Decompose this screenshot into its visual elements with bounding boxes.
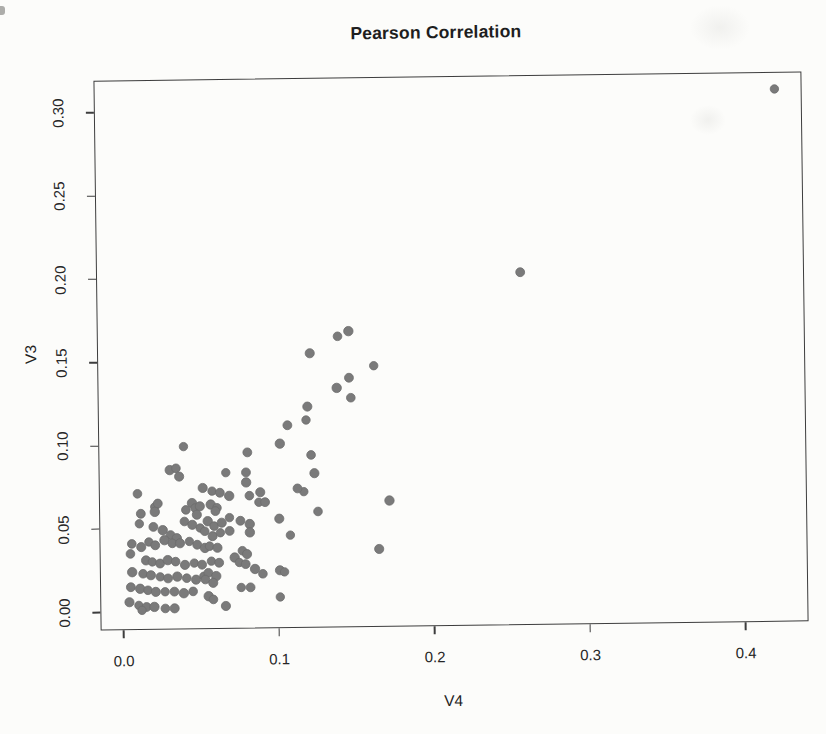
data-point (241, 560, 250, 569)
data-point (293, 484, 302, 493)
data-point (198, 483, 207, 492)
data-point (171, 557, 180, 566)
y-tick-label: 0.15 (52, 348, 69, 377)
y-tick-label: 0.00 (56, 598, 73, 627)
data-point (346, 393, 355, 402)
data-point (164, 574, 173, 583)
x-tick-mark (434, 626, 435, 634)
data-point (305, 349, 314, 358)
data-point (770, 85, 779, 94)
data-point (225, 513, 234, 522)
data-point (215, 488, 224, 497)
y-tick-mark (90, 445, 98, 446)
y-tick-mark (86, 112, 94, 113)
data-point (148, 558, 157, 567)
data-point (275, 439, 285, 449)
x-tick-mark (278, 628, 279, 636)
data-point (151, 587, 160, 596)
data-point (215, 558, 224, 567)
data-point (369, 361, 378, 370)
data-point (332, 383, 342, 393)
x-tick-mark (589, 624, 590, 632)
data-point (190, 559, 199, 568)
data-point (133, 489, 142, 498)
data-point (314, 507, 323, 516)
x-tick-label: 0.2 (424, 648, 445, 665)
data-point (286, 531, 295, 540)
data-point (135, 520, 144, 529)
data-point (245, 528, 255, 538)
data-point (216, 528, 225, 537)
x-axis-title: V4 (444, 692, 463, 710)
data-point (246, 583, 255, 592)
data-point (237, 583, 246, 592)
data-point (181, 505, 190, 514)
data-point (175, 539, 184, 548)
data-point (161, 588, 170, 597)
data-point (127, 567, 137, 577)
x-tick-mark (745, 622, 746, 630)
data-point (170, 587, 179, 596)
data-point (280, 568, 289, 577)
data-point (173, 572, 183, 582)
data-point (303, 402, 312, 411)
data-point (221, 601, 230, 610)
y-tick-label: 0.10 (54, 432, 71, 461)
data-point (151, 541, 160, 550)
data-point (208, 487, 217, 496)
data-point (236, 516, 245, 525)
data-point (146, 571, 155, 580)
y-tick-mark (91, 529, 99, 530)
data-point (259, 569, 268, 578)
data-point (276, 593, 285, 602)
data-point (217, 518, 226, 527)
data-point (150, 602, 160, 612)
data-point (242, 549, 251, 558)
data-point (125, 598, 134, 607)
data-point (170, 604, 179, 613)
data-point (241, 468, 250, 477)
data-point (163, 555, 173, 565)
data-point (283, 421, 292, 430)
data-point (307, 451, 316, 460)
x-tick-label: 0.0 (114, 652, 135, 669)
x-tick-label: 0.3 (580, 646, 601, 663)
y-tick-label: 0.25 (50, 182, 67, 211)
data-point (225, 526, 234, 535)
data-point (150, 507, 160, 517)
data-point (172, 464, 181, 473)
data-point (138, 606, 147, 615)
data-point (200, 527, 209, 536)
data-point (136, 509, 145, 518)
x-tick-label: 0.1 (269, 650, 290, 667)
data-point (139, 569, 148, 578)
data-point (224, 491, 234, 501)
data-point (126, 583, 135, 592)
data-point (516, 268, 525, 277)
chart-canvas: Pearson Correlation 0.00.10.20.30.40.000… (0, 0, 826, 734)
y-tick-mark (89, 362, 97, 363)
data-point (344, 373, 353, 382)
data-point (211, 507, 220, 516)
data-point (135, 584, 145, 594)
data-point (126, 550, 135, 559)
data-point (222, 468, 231, 477)
y-tick-label: 0.20 (51, 265, 68, 294)
data-point (182, 574, 191, 583)
data-point (179, 588, 189, 598)
data-point (189, 587, 198, 596)
data-point (209, 578, 218, 587)
x-tick-label: 0.4 (735, 644, 756, 661)
x-tick-mark (123, 630, 124, 638)
data-point (250, 564, 260, 574)
data-point (179, 442, 188, 451)
data-point (127, 540, 136, 549)
data-point (174, 472, 183, 481)
data-point (156, 573, 165, 582)
data-point (137, 542, 146, 551)
data-point (207, 557, 216, 566)
data-point (344, 326, 354, 336)
y-tick-mark (88, 279, 96, 280)
data-point (243, 448, 252, 457)
data-point (209, 595, 218, 604)
